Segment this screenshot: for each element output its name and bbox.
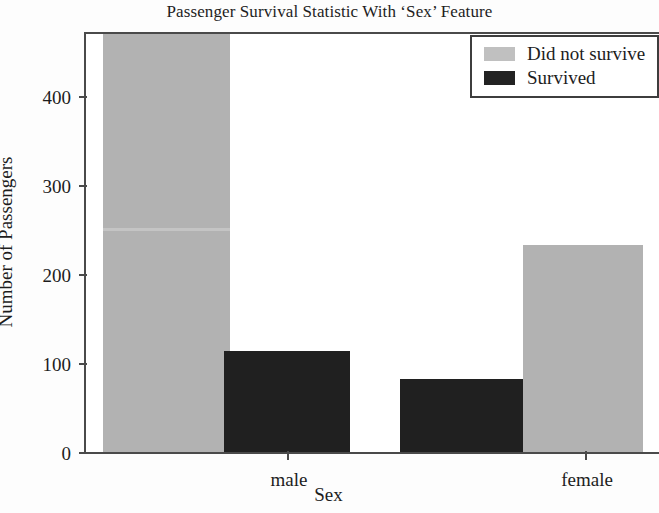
y-tick-300: 300: [79, 185, 87, 187]
y-axis-title-wrap: Number of Passengers: [8, 32, 32, 454]
y-tick-label-400: 400: [43, 87, 72, 109]
y-tick-label-200: 200: [43, 265, 72, 287]
y-tick-0: 0: [79, 452, 87, 454]
chart-title: Passenger Survival Statistic With ‘Sex’ …: [0, 2, 659, 22]
x-tick-female: female: [585, 451, 587, 460]
legend-label-survived: Survived: [527, 67, 596, 89]
y-tick-400: 400: [79, 96, 87, 98]
y-tick-200: 200: [79, 274, 87, 276]
y-tick-label-100: 100: [43, 354, 72, 376]
x-axis-title: Sex: [314, 484, 343, 506]
x-tick-male: male: [287, 451, 289, 460]
legend-swatch-survived: [484, 71, 515, 85]
y-tick-label-300: 300: [43, 176, 72, 198]
y-tick-label-0: 0: [62, 443, 72, 465]
legend-entry-survived: Survived: [484, 66, 653, 90]
legend-entry-did-not-survive: Did not survive: [484, 42, 653, 66]
bar-female-survived: [400, 379, 523, 452]
legend-swatch-did-not-survive: [484, 47, 515, 61]
x-axis-title-wrap: Sex: [84, 484, 659, 506]
bar-male-did-not-survive: [103, 34, 230, 452]
chart-legend: Did not survive Survived: [470, 35, 659, 98]
y-tick-100: 100: [79, 363, 87, 365]
y-axis-title: Number of Passengers: [0, 92, 17, 392]
scan-artifact-line: [103, 228, 230, 231]
bar-male-survived: [224, 351, 350, 452]
chart-figure: Passenger Survival Statistic With ‘Sex’ …: [0, 0, 659, 513]
legend-label-did-not-survive: Did not survive: [527, 43, 645, 65]
bar-female-did-not-survive: [523, 245, 643, 452]
